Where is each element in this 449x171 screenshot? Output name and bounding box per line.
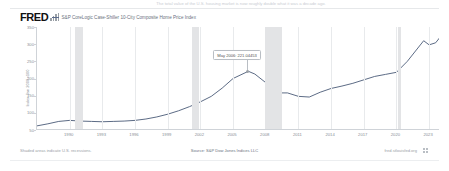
y-tick-label-200: 200 bbox=[27, 76, 34, 81]
gridline-x-1996 bbox=[135, 27, 136, 129]
x-tick-label-1996: 1996 bbox=[129, 132, 138, 138]
y-tick-mark-350 bbox=[34, 27, 36, 28]
y-tick-label-150: 150 bbox=[27, 93, 34, 98]
top-divider bbox=[10, 8, 439, 9]
gridline-x-1990 bbox=[70, 27, 71, 129]
x-tick-label-2023: 2023 bbox=[423, 132, 432, 138]
gridline-x-1993 bbox=[102, 27, 103, 129]
gridline-x-2011 bbox=[298, 27, 299, 129]
y-axis: Index Jan 2000=100 50100150200250300350 bbox=[14, 27, 35, 130]
x-tick-label-1999: 1999 bbox=[162, 132, 171, 138]
gridline-x-2014 bbox=[331, 27, 332, 129]
y-tick-label-100: 100 bbox=[27, 110, 34, 115]
x-tick-label-2005: 2005 bbox=[227, 132, 236, 138]
chart-footer: Shaded areas indicate U.S. recessions. S… bbox=[10, 148, 439, 158]
gridline-x-1999 bbox=[168, 27, 169, 129]
recession-band-4 bbox=[398, 27, 401, 129]
x-tick-label-2017: 2017 bbox=[358, 132, 367, 138]
gridline-x-2017 bbox=[364, 27, 365, 129]
x-tick-label-2011: 2011 bbox=[293, 132, 302, 138]
footer-source: Source: S&P Dow Jones Indices LLC bbox=[10, 148, 439, 154]
y-tick-mark-200 bbox=[34, 79, 36, 80]
page-caption: The total value of the U.S. housing mark… bbox=[96, 0, 386, 8]
chart-legend: S&P CoreLogic Case-Shiller 10-City Compo… bbox=[52, 13, 196, 22]
fred-logo[interactable]: FRED bbox=[20, 12, 48, 23]
y-tick-label-350: 350 bbox=[27, 25, 34, 30]
y-tick-label-300: 300 bbox=[27, 42, 34, 47]
x-tick-label-2020: 2020 bbox=[391, 132, 400, 138]
legend-swatch-series-1 bbox=[52, 17, 59, 18]
y-tick-mark-150 bbox=[34, 96, 36, 97]
fred-chart-screenshot: The total value of the U.S. housing mark… bbox=[0, 0, 449, 171]
footer-divider bbox=[10, 160, 439, 161]
y-tick-label-250: 250 bbox=[27, 59, 34, 64]
y-tick-mark-100 bbox=[34, 113, 36, 114]
annotation-callout[interactable]: May 2006: 221.04453 bbox=[213, 50, 261, 60]
y-tick-mark-300 bbox=[34, 44, 36, 45]
legend-label-series-1[interactable]: S&P CoreLogic Case-Shiller 10-City Compo… bbox=[62, 15, 196, 21]
x-axis: 1990199319961999200220052008201120142017… bbox=[36, 131, 439, 141]
x-tick-label-2014: 2014 bbox=[325, 132, 334, 138]
recession-band-1 bbox=[75, 27, 83, 129]
y-tick-mark-250 bbox=[34, 61, 36, 62]
y-tick-mark-50 bbox=[34, 130, 36, 131]
series-line-case-shiller bbox=[37, 27, 439, 130]
x-tick-label-2008: 2008 bbox=[260, 132, 269, 138]
annotation-point-marker bbox=[246, 70, 249, 73]
x-tick-label-1990: 1990 bbox=[64, 132, 73, 138]
x-tick-label-1993: 1993 bbox=[97, 132, 106, 138]
gridline-x-2002 bbox=[200, 27, 201, 129]
fred-grid-icon bbox=[423, 148, 429, 154]
footer-url[interactable]: fred.stlouisfed.org bbox=[384, 148, 417, 154]
gridline-x-2023 bbox=[429, 27, 430, 129]
gridline-x-2005 bbox=[233, 27, 234, 129]
recession-band-2 bbox=[192, 27, 200, 129]
x-tick-label-2002: 2002 bbox=[195, 132, 204, 138]
plot-area bbox=[36, 27, 439, 130]
recession-band-3 bbox=[265, 27, 282, 129]
